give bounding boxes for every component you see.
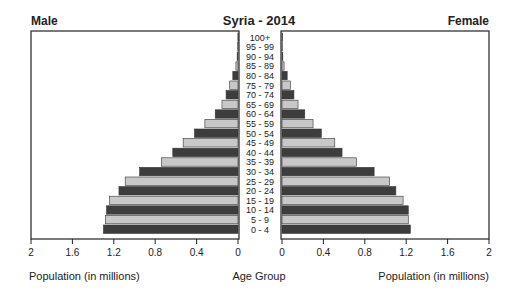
female-x-tick-label: 1.2 <box>399 247 413 258</box>
age-group-label: 75 - 79 <box>246 81 274 91</box>
age-group-labels: 100+95 - 9990 - 9485 - 8980 - 8475 - 797… <box>246 33 274 235</box>
female-bar-25-29 <box>282 177 390 185</box>
female-bar-10-14 <box>282 206 408 214</box>
male-bar-65-69 <box>222 100 238 108</box>
male-bar-15-19 <box>110 196 238 204</box>
female-bar-5-9 <box>282 215 408 223</box>
age-group-label: 65 - 69 <box>246 100 274 110</box>
male-x-axis-label: Population (in millions) <box>29 270 140 282</box>
female-bar-30-34 <box>282 167 374 175</box>
male-x-tick-label: 1.2 <box>107 247 121 258</box>
male-bar-70-74 <box>226 91 238 99</box>
male-bar-95-99 <box>238 43 239 51</box>
male-x-tick-label: 0.4 <box>190 247 204 258</box>
age-group-label: 80 - 84 <box>246 71 274 81</box>
age-group-label: 15 - 19 <box>246 196 274 206</box>
female-bar-95-99 <box>282 43 283 51</box>
male-bar-25-29 <box>125 177 238 185</box>
male-x-axis: 00.40.81.21.62 <box>28 239 241 258</box>
male-x-tick-label: 2 <box>28 247 34 258</box>
male-bar-20-24 <box>119 187 238 195</box>
age-group-label: 20 - 24 <box>246 186 274 196</box>
male-bar-60-64 <box>215 110 238 118</box>
age-group-label: 85 - 89 <box>246 61 274 71</box>
male-bar-0-4 <box>103 225 238 233</box>
female-bar-60-64 <box>282 110 305 118</box>
male-bar-5-9 <box>106 215 238 223</box>
female-bar-0-4 <box>282 225 410 233</box>
male-bar-10-14 <box>107 206 238 214</box>
male-x-tick-label: 0.8 <box>148 247 162 258</box>
male-bar-50-54 <box>195 129 238 137</box>
male-bar-85-89 <box>236 62 238 70</box>
female-x-axis: 00.40.81.21.62 <box>279 239 492 258</box>
age-group-axis-label: Age Group <box>232 270 285 282</box>
female-bar-55-59 <box>282 119 313 127</box>
female-bar-15-19 <box>282 196 403 204</box>
female-x-tick-label: 0.8 <box>358 247 372 258</box>
male-x-tick-label: 0 <box>235 247 241 258</box>
female-x-tick-label: 1.6 <box>441 247 455 258</box>
female-bars <box>282 33 410 233</box>
population-pyramid-chart: Male Syria - 2014 Female 100+95 - 9990 -… <box>0 0 519 300</box>
female-bar-65-69 <box>282 100 298 108</box>
female-bar-90-94 <box>282 52 283 60</box>
male-bars <box>103 33 238 233</box>
age-group-label: 25 - 29 <box>246 177 274 187</box>
age-group-label: 10 - 14 <box>246 205 274 215</box>
male-bar-55-59 <box>205 119 238 127</box>
female-x-axis-label: Population (in millions) <box>378 270 489 282</box>
male-bar-40-44 <box>173 148 238 156</box>
male-bar-35-39 <box>161 158 238 166</box>
female-x-tick-label: 2 <box>486 247 492 258</box>
male-bar-80-84 <box>233 71 238 79</box>
age-group-label: 40 - 44 <box>246 148 274 158</box>
female-bar-70-74 <box>282 91 294 99</box>
age-group-label: 70 - 74 <box>246 90 274 100</box>
female-bar-35-39 <box>282 158 357 166</box>
age-group-label: 90 - 94 <box>246 52 274 62</box>
male-bar-75-79 <box>230 81 238 89</box>
female-label: Female <box>448 14 490 28</box>
female-bar-40-44 <box>282 148 342 156</box>
female-bar-50-54 <box>282 129 321 137</box>
age-group-label: 60 - 64 <box>246 109 274 119</box>
male-bar-90-94 <box>237 52 238 60</box>
female-bar-85-89 <box>282 62 284 70</box>
female-bar-75-79 <box>282 81 290 89</box>
female-bar-20-24 <box>282 187 396 195</box>
age-group-label: 35 - 39 <box>246 157 274 167</box>
age-group-label: 50 - 54 <box>246 129 274 139</box>
male-x-tick-label: 1.6 <box>65 247 79 258</box>
female-x-tick-label: 0.4 <box>316 247 330 258</box>
age-group-label: 55 - 59 <box>246 119 274 129</box>
female-bar-80-84 <box>282 71 287 79</box>
female-x-tick-label: 0 <box>279 247 285 258</box>
age-group-label: 5 - 9 <box>251 215 269 225</box>
age-group-label: 95 - 99 <box>246 42 274 52</box>
age-group-label: 100+ <box>250 33 270 43</box>
male-label: Male <box>31 14 58 28</box>
male-bar-45-49 <box>183 139 238 147</box>
male-bar-30-34 <box>140 167 238 175</box>
age-group-label: 0 - 4 <box>251 225 269 235</box>
age-group-label: 30 - 34 <box>246 167 274 177</box>
chart-title: Syria - 2014 <box>223 13 296 28</box>
age-group-label: 45 - 49 <box>246 138 274 148</box>
female-bar-45-49 <box>282 139 335 147</box>
male-bar-100+ <box>238 33 239 41</box>
female-bar-100+ <box>282 33 283 41</box>
